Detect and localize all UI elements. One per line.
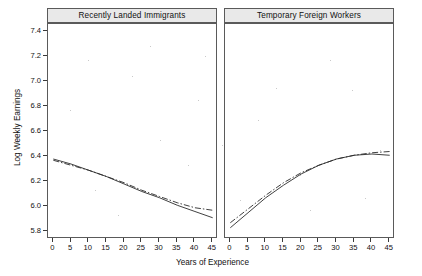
speckle <box>88 60 89 61</box>
x-tick-mark <box>247 238 248 242</box>
left-panel-curves <box>48 24 217 238</box>
speckle <box>276 88 277 89</box>
plot-panel-right <box>224 23 394 238</box>
y-tick-label: 7.0 <box>17 76 41 85</box>
speckle <box>310 210 311 211</box>
x-tick-mark <box>264 238 265 242</box>
speckle <box>352 90 353 91</box>
y-tick-mark <box>43 30 47 31</box>
x-tick-mark <box>52 238 53 242</box>
x-tick-mark <box>388 238 389 242</box>
x-tick-mark <box>193 238 194 242</box>
y-tick-mark <box>43 230 47 231</box>
x-tick-mark <box>105 238 106 242</box>
right-panel-curves <box>225 24 394 238</box>
x-tick-mark <box>300 238 301 242</box>
y-tick-label: 7.4 <box>17 26 41 35</box>
speckle <box>70 110 71 111</box>
y-tick-label: 7.2 <box>17 51 41 60</box>
x-tick-mark <box>335 238 336 242</box>
panel-strip-left: Recently Landed Immigrants <box>47 8 217 23</box>
panel-strip-right: Temporary Foreign Workers <box>224 8 394 23</box>
x-tick-mark <box>123 238 124 242</box>
x-tick-mark <box>211 238 212 242</box>
x-tick-label: 45 <box>379 243 399 252</box>
y-tick-mark <box>43 180 47 181</box>
y-tick-mark <box>43 205 47 206</box>
y-tick-mark <box>43 105 47 106</box>
speckle <box>365 198 366 199</box>
speckle <box>300 175 301 176</box>
y-tick-mark <box>43 130 47 131</box>
chart-root: Log Weekly Earnings Years of Experience … <box>0 0 422 276</box>
y-tick-mark <box>43 80 47 81</box>
x-tick-mark <box>229 238 230 242</box>
y-tick-label: 6.6 <box>17 126 41 135</box>
speckle <box>160 140 161 141</box>
x-tick-mark <box>70 238 71 242</box>
speckle <box>150 46 151 47</box>
panel-strip-right-label: Temporary Foreign Workers <box>257 11 361 20</box>
x-tick-mark <box>317 238 318 242</box>
x-tick-mark <box>158 238 159 242</box>
speckle <box>198 100 199 101</box>
x-tick-mark <box>87 238 88 242</box>
speckle <box>240 200 241 201</box>
x-tick-mark <box>370 238 371 242</box>
speckle <box>205 56 206 57</box>
speckle <box>258 120 259 121</box>
y-tick-mark <box>43 55 47 56</box>
y-tick-label: 5.8 <box>17 226 41 235</box>
y-tick-label: 6.0 <box>17 201 41 210</box>
plot-panel-left <box>47 23 217 238</box>
x-tick-mark <box>176 238 177 242</box>
speckle <box>330 60 331 61</box>
x-tick-mark <box>282 238 283 242</box>
speckle <box>188 165 189 166</box>
panel-strip-left-label: Recently Landed Immigrants <box>79 11 186 20</box>
speckle <box>95 190 96 191</box>
speckle <box>132 76 133 77</box>
speckle <box>380 150 381 151</box>
y-tick-label: 6.8 <box>17 101 41 110</box>
y-tick-mark <box>43 155 47 156</box>
speckle <box>118 215 119 216</box>
y-tick-label: 6.2 <box>17 176 41 185</box>
x-axis-title: Years of Experience <box>176 258 249 267</box>
x-tick-mark <box>353 238 354 242</box>
speckle <box>222 145 223 146</box>
x-tick-mark <box>140 238 141 242</box>
y-tick-label: 6.4 <box>17 151 41 160</box>
